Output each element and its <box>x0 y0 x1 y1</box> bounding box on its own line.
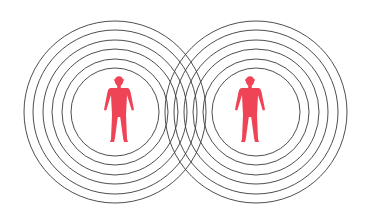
person-icon-left <box>104 76 134 142</box>
interference-diagram <box>0 0 366 221</box>
diagram-canvas <box>0 0 366 221</box>
person-icon-right <box>235 76 265 142</box>
